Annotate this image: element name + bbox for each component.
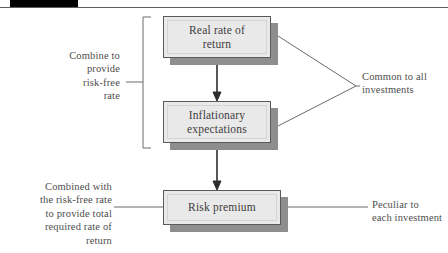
annotation-common-to-all-investments: Common to allinvestments: [362, 70, 446, 97]
page-header-rule: [0, 0, 448, 9]
node-inflationary-expectations[interactable]: Inflationaryexpectations: [163, 101, 271, 143]
node-risk-premium[interactable]: Risk premium: [163, 190, 281, 225]
header-horizontal-line: [0, 7, 448, 8]
node-inflationary-expectations-label: Inflationaryexpectations: [181, 108, 253, 136]
node-risk-premium-label: Risk premium: [182, 200, 262, 214]
converging-lines-common-to-all: [278, 36, 360, 126]
diagram-page: Real rate ofreturn Inflationaryexpectati…: [0, 0, 448, 253]
left-bracket: [126, 17, 151, 148]
annotation-combined-with-risk-free-rate: Combined withthe risk-free rateto provid…: [8, 180, 112, 247]
annotation-combine-to-provide-risk-free-rate: Combine toproviderisk-freerate: [42, 49, 120, 103]
arrow-inflation-to-risk-premium: [213, 143, 221, 190]
node-real-rate-of-return[interactable]: Real rate ofreturn: [163, 16, 271, 58]
annotation-peculiar-to-each-investment: Peculiar toeach investment: [372, 198, 448, 225]
node-real-rate-of-return-label: Real rate ofreturn: [183, 23, 251, 51]
